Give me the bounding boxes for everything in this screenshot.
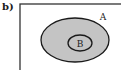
set-b-label: B	[77, 39, 84, 49]
set-a-label: A	[99, 12, 107, 22]
venn-figure: b) A B	[0, 0, 121, 70]
venn-diagram: A B	[0, 0, 121, 70]
